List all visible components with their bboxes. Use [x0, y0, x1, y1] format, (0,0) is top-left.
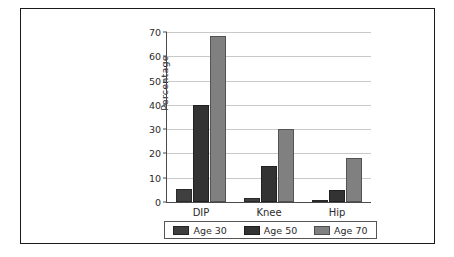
bar-group: Knee: [235, 32, 303, 202]
bar: [244, 198, 260, 202]
y-tick-label: 30: [149, 124, 161, 135]
bar-group: Hip: [303, 32, 371, 202]
legend-swatch: [314, 226, 330, 235]
y-tick-label: 50: [149, 75, 161, 86]
bar: [346, 158, 362, 202]
y-tick-label: 10: [149, 172, 161, 183]
bar: [193, 105, 209, 202]
bar: [312, 200, 328, 202]
y-tick-label: 40: [149, 99, 161, 110]
bar-group: DIP: [167, 32, 235, 202]
figure-frame: Percentage 010203040506070DIPKneeHip Age…: [20, 8, 435, 244]
legend-swatch: [244, 226, 260, 235]
chart-legend: Age 30Age 50Age 70: [164, 221, 377, 239]
bar: [176, 189, 192, 202]
y-tick-label: 0: [155, 197, 161, 208]
legend-item: Age 30: [173, 225, 226, 236]
x-tick-label: DIP: [167, 207, 235, 218]
bar: [210, 36, 226, 202]
bar: [278, 129, 294, 202]
bar: [261, 166, 277, 202]
y-tick-label: 20: [149, 148, 161, 159]
plot-area: 010203040506070DIPKneeHip: [167, 32, 371, 202]
bar: [329, 190, 345, 202]
legend-item: Age 70: [314, 225, 367, 236]
y-tick-label: 60: [149, 51, 161, 62]
legend-item: Age 50: [244, 225, 297, 236]
x-axis-line: [166, 202, 371, 203]
legend-label: Age 70: [334, 225, 367, 236]
legend-label: Age 50: [264, 225, 297, 236]
y-tick-label: 70: [149, 27, 161, 38]
x-tick-label: Hip: [303, 207, 371, 218]
plot-inner: 010203040506070DIPKneeHip: [167, 32, 371, 202]
legend-swatch: [173, 226, 189, 235]
chart-figure: Percentage 010203040506070DIPKneeHip Age…: [0, 0, 454, 257]
legend-label: Age 30: [193, 225, 226, 236]
x-tick-label: Knee: [235, 207, 303, 218]
